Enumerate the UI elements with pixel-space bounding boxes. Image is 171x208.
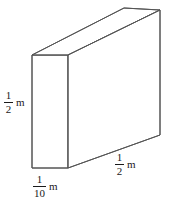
height-fraction: 1 2 bbox=[4, 90, 13, 115]
length-dimension-label: 1 2 m bbox=[115, 152, 136, 177]
front-face bbox=[32, 55, 68, 168]
length-fraction: 1 2 bbox=[115, 152, 124, 177]
prism-figure: 1 2 m 1 10 m 1 2 m bbox=[0, 0, 171, 208]
depth-dimension-label: 1 10 m bbox=[33, 174, 58, 199]
height-denominator: 2 bbox=[5, 104, 13, 116]
depth-numerator: 1 bbox=[36, 174, 44, 186]
length-unit: m bbox=[127, 159, 136, 170]
length-denominator: 2 bbox=[116, 166, 124, 178]
prism-drawing bbox=[0, 0, 171, 208]
depth-unit: m bbox=[49, 181, 58, 192]
depth-fraction: 1 10 bbox=[33, 174, 46, 199]
height-unit: m bbox=[16, 97, 25, 108]
height-dimension-label: 1 2 m bbox=[4, 90, 25, 115]
length-numerator: 1 bbox=[116, 152, 124, 164]
height-numerator: 1 bbox=[5, 90, 13, 102]
front-face-polygon bbox=[32, 55, 68, 168]
depth-denominator: 10 bbox=[33, 188, 46, 200]
